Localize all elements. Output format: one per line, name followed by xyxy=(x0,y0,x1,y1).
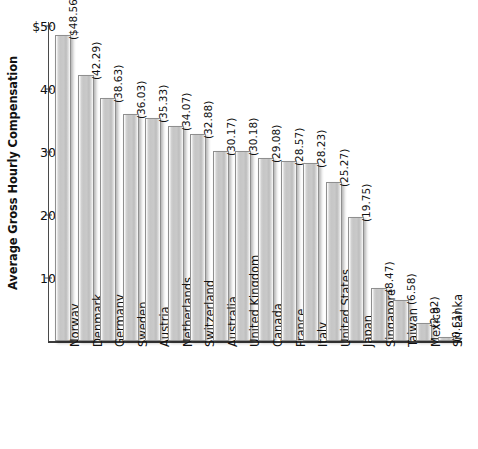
bar[interactable] xyxy=(303,163,319,341)
y-axis-tick-label: 30 xyxy=(26,145,56,160)
bar-value-label: ($48.56) xyxy=(67,0,79,40)
bar-chart: Average Gross Hourly Compensation $50403… xyxy=(0,0,478,449)
y-axis-tick-label: 40 xyxy=(26,82,56,97)
plot-area: $5040302010($48.56)Norway(42.29)Denmark(… xyxy=(0,0,478,449)
y-axis-line xyxy=(48,22,49,342)
y-axis-tick-label: 10 xyxy=(26,271,56,286)
x-axis-category-label: Sri Lanka xyxy=(451,294,465,347)
bar[interactable] xyxy=(55,35,71,341)
y-axis-tick-label: $50 xyxy=(26,19,56,34)
y-axis-tick-label: 20 xyxy=(26,208,56,223)
